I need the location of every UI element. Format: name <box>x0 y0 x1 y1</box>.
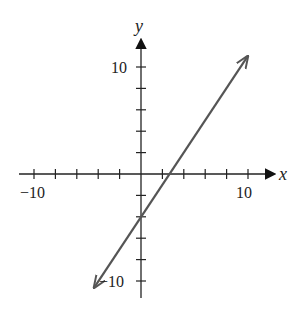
y-tick-label-10: 10 <box>111 59 127 76</box>
y-axis-label: y <box>133 16 143 36</box>
x-tick-label-neg10: −10 <box>20 184 45 201</box>
x-tick-label-10: 10 <box>236 184 252 201</box>
coordinate-plane: x y −10 10 10 −10 <box>0 0 305 315</box>
x-axis-label: x <box>278 164 287 184</box>
plotted-line <box>95 57 247 286</box>
y-tick-label-neg10: −10 <box>99 273 124 290</box>
